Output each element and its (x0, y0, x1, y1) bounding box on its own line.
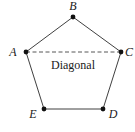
vertex-d-dot (101, 107, 106, 112)
pentagon-diagram: A B C D E Diagonal (0, 0, 135, 132)
vertex-d-label: D (108, 107, 118, 121)
edge-c-d (103, 52, 121, 109)
diagonal-label: Diagonal (51, 58, 96, 72)
vertex-b-label: B (69, 0, 77, 13)
vertex-c-label: C (125, 45, 134, 59)
vertex-a-label: A (8, 45, 17, 59)
vertex-b-dot (71, 15, 76, 20)
vertex-a-dot (24, 50, 29, 55)
vertex-e-label: E (28, 107, 37, 121)
vertex-c-dot (119, 50, 124, 55)
edge-e-a (26, 52, 44, 109)
edge-a-b (26, 17, 73, 52)
edge-b-c (73, 17, 121, 52)
vertex-e-dot (42, 107, 47, 112)
